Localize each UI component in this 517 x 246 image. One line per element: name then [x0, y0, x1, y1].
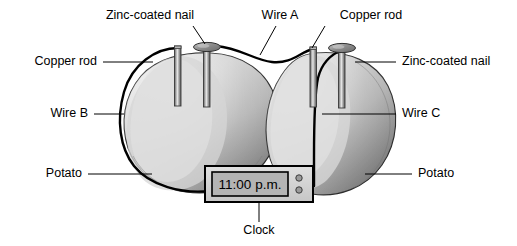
leader-wire-a: [260, 26, 276, 55]
label-wire-b: Wire B: [51, 106, 89, 120]
leader-copper-rod-top: [312, 26, 325, 48]
label-zinc-coated-nail-right: Zinc-coated nail: [402, 54, 490, 68]
copper-rod-right: [310, 47, 317, 107]
label-clock: Clock: [243, 223, 275, 237]
copper-rod-left: [175, 46, 182, 106]
potato-battery-diagram: 11:00 p.m. Zinc-coated nail Wire A Coppe…: [0, 0, 517, 246]
label-copper-rod-top: Copper rod: [340, 8, 403, 22]
clock-button-bottom: [296, 187, 302, 193]
label-wire-a: Wire A: [262, 8, 299, 22]
label-potato-right: Potato: [418, 166, 454, 180]
clock-button-top: [296, 175, 302, 181]
label-copper-rod-left: Copper rod: [34, 54, 97, 68]
leader-zinc-nail-top: [193, 26, 205, 44]
label-wire-c: Wire C: [402, 106, 440, 120]
label-potato-left: Potato: [46, 166, 82, 180]
clock-device[interactable]: 11:00 p.m.: [205, 166, 313, 202]
label-zinc-coated-nail-top: Zinc-coated nail: [106, 8, 194, 22]
clock-time-value: 11:00 p.m.: [219, 177, 282, 192]
